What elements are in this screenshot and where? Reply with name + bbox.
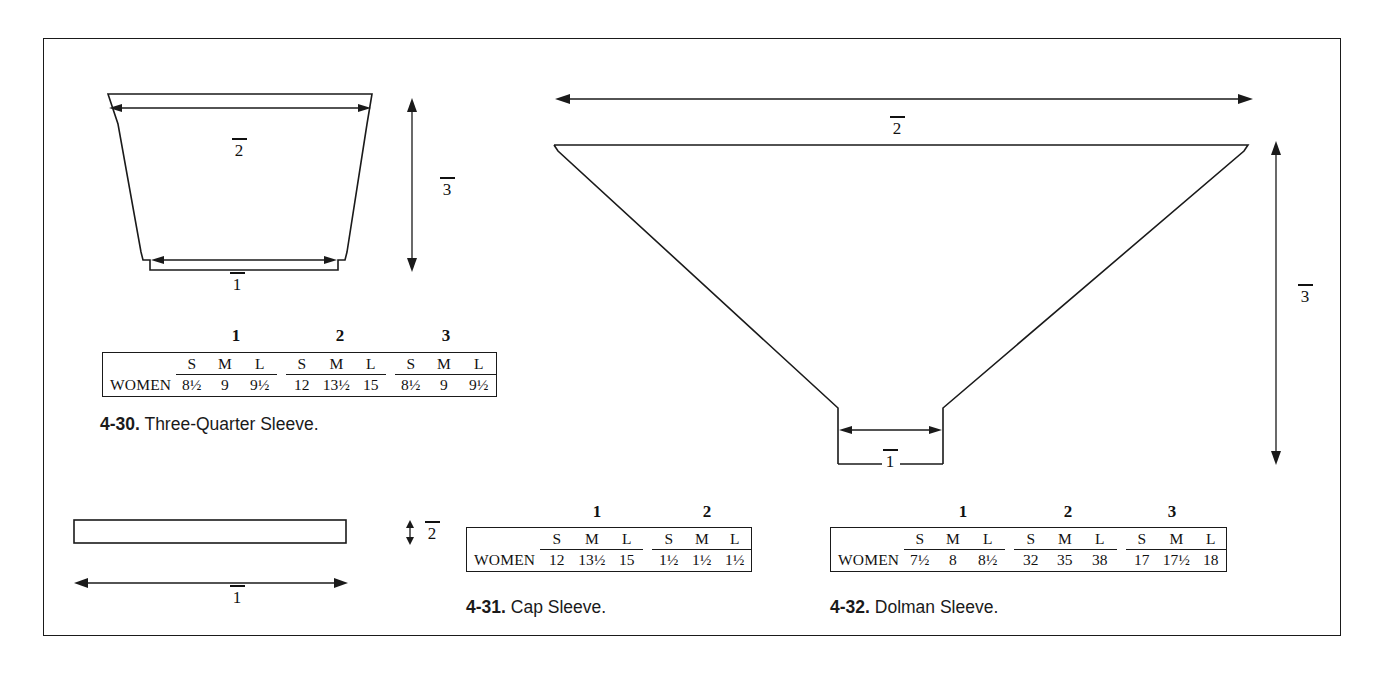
cell-value: 35 bbox=[1047, 549, 1082, 570]
size-header-l: L bbox=[718, 528, 751, 549]
dimension-label-1: 1 bbox=[222, 585, 252, 606]
group-heading-3: 3 bbox=[442, 326, 451, 346]
size-header-m: M bbox=[935, 528, 970, 549]
size-header-m: M bbox=[426, 353, 461, 374]
dimension-label-3: 3 bbox=[432, 177, 462, 198]
dolman-sleeve-table: S M L S M L S M L WOMEN 7½ 8 8½ 32 35 3 bbox=[830, 527, 1227, 572]
table-row: WOMEN 8½ 9 9½ 12 13½ 15 8½ 9 9½ bbox=[103, 374, 496, 395]
dimension-label-1: 1 bbox=[220, 272, 254, 293]
group-heading-1: 1 bbox=[232, 326, 241, 346]
group-heading-2: 2 bbox=[336, 326, 345, 346]
table-row: WOMEN 7½ 8 8½ 32 35 38 17 17½ 18 bbox=[831, 549, 1226, 570]
group-heading-1: 1 bbox=[959, 502, 968, 522]
size-header-m: M bbox=[1157, 528, 1195, 549]
table-header-row: S M L S M L S M L bbox=[103, 353, 496, 374]
size-header-s: S bbox=[1014, 528, 1047, 549]
cell-value: 38 bbox=[1082, 549, 1117, 570]
dimension-arrow-2 bbox=[109, 104, 371, 112]
group-heading-2: 2 bbox=[1064, 502, 1073, 522]
row-label: WOMEN bbox=[467, 549, 540, 570]
dimension-label-2: 2 bbox=[880, 116, 914, 137]
dimension-arrow-1 bbox=[151, 256, 337, 264]
caption-three-quarter-sleeve: 4-30. Three-Quarter Sleeve. bbox=[100, 414, 319, 435]
size-header-m: M bbox=[207, 353, 242, 374]
figure-title: Dolman Sleeve. bbox=[875, 597, 999, 617]
size-header-s: S bbox=[176, 353, 207, 374]
cell-value: 9½ bbox=[461, 374, 496, 395]
dimension-arrow-1 bbox=[74, 578, 348, 588]
row-label: WOMEN bbox=[103, 374, 176, 395]
dimension-label-3: 3 bbox=[1290, 284, 1320, 305]
row-label: WOMEN bbox=[831, 549, 904, 570]
figure-number: 4-30. bbox=[100, 414, 140, 434]
size-header-m: M bbox=[317, 353, 355, 374]
size-header-s: S bbox=[904, 528, 935, 549]
dimension-arrow-1 bbox=[839, 426, 942, 434]
cell-value: 17 bbox=[1126, 549, 1157, 570]
cell-value: 18 bbox=[1195, 549, 1226, 570]
table-header-row: S M L S M L bbox=[467, 528, 751, 549]
size-header-l: L bbox=[461, 353, 496, 374]
cell-value: 1½ bbox=[652, 549, 685, 570]
size-header-l: L bbox=[1082, 528, 1117, 549]
cell-value: 12 bbox=[540, 549, 573, 570]
cell-value: 8½ bbox=[395, 374, 426, 395]
size-header-l: L bbox=[970, 528, 1005, 549]
figure-title: Three-Quarter Sleeve. bbox=[144, 414, 318, 434]
caption-dolman-sleeve: 4-32. Dolman Sleeve. bbox=[830, 597, 998, 618]
dimension-label-1: 1 bbox=[874, 449, 906, 470]
figure-number: 4-31. bbox=[466, 597, 506, 617]
cell-value: 32 bbox=[1014, 549, 1047, 570]
figure-title: Cap Sleeve. bbox=[511, 597, 606, 617]
three-quarter-height-arrow bbox=[400, 95, 424, 275]
dimension-label-2: 2 bbox=[222, 138, 256, 159]
cell-value: 1½ bbox=[718, 549, 751, 570]
figure-page: 2 1 3 1 2 3 S M L S M L S M L bbox=[0, 0, 1380, 678]
caption-cap-sleeve: 4-31. Cap Sleeve. bbox=[466, 597, 606, 618]
size-header-l: L bbox=[610, 528, 643, 549]
group-heading-3: 3 bbox=[1168, 502, 1177, 522]
cell-value: 13½ bbox=[573, 549, 610, 570]
size-header-m: M bbox=[1047, 528, 1082, 549]
table-header-row: S M L S M L S M L bbox=[831, 528, 1226, 549]
group-heading-1: 1 bbox=[593, 502, 602, 522]
size-header-m: M bbox=[573, 528, 610, 549]
cell-value: 8½ bbox=[176, 374, 207, 395]
cell-value: 1½ bbox=[685, 549, 718, 570]
cell-value: 9 bbox=[426, 374, 461, 395]
cell-value: 7½ bbox=[904, 549, 935, 570]
dimension-arrow-2 bbox=[555, 94, 1253, 104]
size-header-s: S bbox=[395, 353, 426, 374]
size-header-l: L bbox=[355, 353, 386, 374]
cell-value: 15 bbox=[610, 549, 643, 570]
cell-value: 9 bbox=[207, 374, 242, 395]
dolman-sleeve-diagram bbox=[548, 88, 1260, 478]
dimension-label-2: 2 bbox=[418, 521, 446, 542]
size-header-s: S bbox=[1126, 528, 1157, 549]
size-header-l: L bbox=[1195, 528, 1226, 549]
figure-number: 4-32. bbox=[830, 597, 870, 617]
size-header-s: S bbox=[652, 528, 685, 549]
cell-value: 15 bbox=[355, 374, 386, 395]
three-quarter-sleeve-table: S M L S M L S M L WOMEN 8½ 9 9½ 12 13½ bbox=[102, 352, 497, 397]
cell-value: 13½ bbox=[317, 374, 355, 395]
cap-sleeve-table: S M L S M L WOMEN 12 13½ 15 1½ 1½ 1½ bbox=[466, 527, 752, 572]
table-row: WOMEN 12 13½ 15 1½ 1½ 1½ bbox=[467, 549, 751, 570]
size-header-m: M bbox=[685, 528, 718, 549]
cell-value: 8½ bbox=[970, 549, 1005, 570]
cell-value: 8 bbox=[935, 549, 970, 570]
size-header-s: S bbox=[540, 528, 573, 549]
size-header-s: S bbox=[286, 353, 317, 374]
cell-value: 17½ bbox=[1157, 549, 1195, 570]
cell-value: 9½ bbox=[242, 374, 277, 395]
cap-sleeve-thickness-arrow bbox=[404, 519, 418, 547]
cell-value: 12 bbox=[286, 374, 317, 395]
size-header-l: L bbox=[242, 353, 277, 374]
dolman-height-arrow bbox=[1264, 138, 1288, 468]
group-heading-2: 2 bbox=[703, 502, 712, 522]
three-quarter-sleeve-diagram bbox=[95, 88, 435, 298]
